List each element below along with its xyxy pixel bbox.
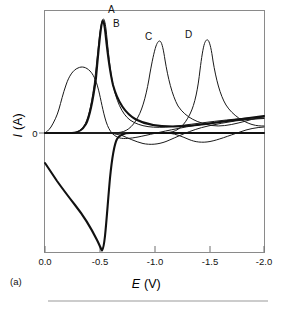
trace-curve-d	[45, 40, 264, 133]
trace-curve-a-reverse	[45, 133, 264, 251]
x-tick-label-4: -2.0	[256, 256, 272, 267]
x-axis-title-unit: (V)	[144, 277, 161, 291]
y-axis-title-unit: (A)	[11, 113, 25, 130]
y-axis-title: I (A)	[11, 113, 25, 137]
figure-panel-a: 0.0 -0.5 -1.0 -1.5 -2.0 0 E (V) I (A) A …	[0, 0, 281, 309]
y-axis-title-symbol: I	[11, 133, 25, 137]
curve-label-c: C	[145, 31, 152, 42]
y-tick-label-0: 0	[32, 128, 37, 139]
x-axis-title: E (V)	[132, 277, 161, 291]
trace-curve-b	[45, 19, 264, 133]
trace-curve-d-reverse	[45, 127, 264, 142]
voltammogram-chart: 0.0 -0.5 -1.0 -1.5 -2.0 0 E (V) I (A) A …	[0, 0, 281, 309]
x-axis-ticks	[45, 246, 264, 252]
x-tick-label-1: -0.5	[92, 256, 108, 267]
x-axis-title-symbol: E	[132, 277, 141, 291]
x-tick-label-2: -1.0	[147, 256, 163, 267]
curve-label-a: A	[108, 4, 115, 15]
x-tick-label-3: -1.5	[202, 256, 218, 267]
trace-curve-b-reverse	[45, 67, 264, 139]
x-tick-label-0: 0.0	[38, 256, 51, 267]
panel-label: (a)	[10, 276, 22, 287]
trace-curve-a	[45, 21, 264, 133]
curve-label-d: D	[185, 29, 192, 40]
curve-label-b: B	[113, 18, 120, 29]
